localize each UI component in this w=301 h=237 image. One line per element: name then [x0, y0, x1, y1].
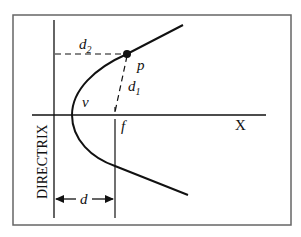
d-arrow-left-head-icon [55, 195, 64, 203]
point-p-marker [123, 50, 131, 58]
d1-label: d1 [128, 78, 141, 97]
vertex-label: v [82, 94, 89, 110]
diagram-frame [13, 15, 291, 225]
focus-label: f [121, 118, 127, 134]
parabola-diagram: d2 p d1 v f X d DIRECTRIX [0, 0, 301, 237]
d2-label: d2 [79, 36, 92, 55]
d-arrow-right-head-icon [105, 195, 114, 203]
distance-d-label: d [80, 191, 88, 207]
point-p-label: p [136, 57, 145, 73]
x-axis-label: X [235, 117, 246, 133]
d1-dashed-line [115, 56, 127, 112]
directrix-label: DIRECTRIX [35, 124, 50, 199]
